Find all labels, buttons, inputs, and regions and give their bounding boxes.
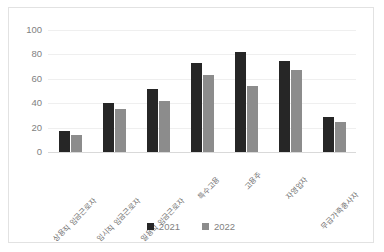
bar-2021[interactable] — [323, 117, 334, 152]
bar-2022[interactable] — [291, 70, 302, 152]
x-tick-label: 고용주 — [243, 171, 263, 191]
bar-group — [191, 30, 214, 152]
legend-swatch-2022-icon — [202, 223, 209, 230]
bar-2022[interactable] — [247, 86, 258, 152]
bar-2021[interactable] — [279, 61, 290, 153]
bar-2021[interactable] — [147, 89, 158, 152]
legend-swatch-2021-icon — [147, 223, 154, 230]
y-tick-40: 40 — [14, 98, 42, 108]
bar-2021[interactable] — [103, 103, 114, 152]
bar-2022[interactable] — [115, 109, 126, 152]
bar-group — [59, 30, 82, 152]
bar-2022[interactable] — [159, 101, 170, 152]
bar-group — [235, 30, 258, 152]
legend-label-2022: 2022 — [214, 222, 235, 232]
y-tick-100: 100 — [14, 25, 42, 35]
y-tick-0: 0 — [14, 147, 42, 157]
y-tick-80: 80 — [14, 49, 42, 59]
bar-2021[interactable] — [235, 52, 246, 152]
plot-area — [48, 30, 356, 152]
bar-2022[interactable] — [335, 122, 346, 153]
x-tick-label: 임시직 임금근로자 — [96, 197, 142, 243]
chart-container: 100 80 60 40 20 0 상용직 임금근로자임시직 임금근로자일용직 … — [8, 7, 374, 243]
bar-group — [323, 30, 346, 152]
legend-item-2021[interactable]: 2021 — [147, 222, 180, 232]
bar-group — [147, 30, 170, 152]
chart-legend: 2021 2022 — [9, 222, 373, 232]
y-axis: 100 80 60 40 20 0 — [9, 30, 42, 152]
x-tick-label: 상용직 임금근로자 — [52, 197, 98, 243]
x-tick-label: 특수고용 — [196, 176, 221, 201]
y-tick-60: 60 — [14, 74, 42, 84]
bar-group — [279, 30, 302, 152]
y-tick-20: 20 — [14, 123, 42, 133]
bar-2022[interactable] — [203, 75, 214, 152]
bar-2021[interactable] — [191, 63, 202, 152]
bar-2022[interactable] — [71, 135, 82, 152]
legend-label-2021: 2021 — [159, 222, 180, 232]
bar-2021[interactable] — [59, 131, 70, 152]
bar-group — [103, 30, 126, 152]
gridline-0 — [48, 152, 356, 153]
x-tick-label: 자영업자 — [284, 176, 309, 201]
legend-item-2022[interactable]: 2022 — [202, 222, 235, 232]
